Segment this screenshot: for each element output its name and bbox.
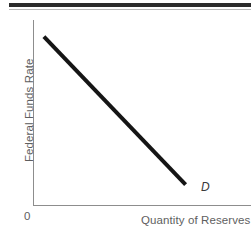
top-rule-thin [9,9,251,10]
x-axis-label: Quantity of Reserves [141,214,250,226]
origin-label: 0 [24,210,30,222]
plot-area [0,0,251,239]
demand-curve [44,37,186,185]
demand-curve-label: D [201,180,210,194]
top-rule-thick [9,3,251,7]
y-axis-label: Federal Funds Rate [23,148,125,162]
x-axis-line [33,205,251,206]
figure-container: Federal Funds Rate Quantity of Reserves … [0,0,251,239]
